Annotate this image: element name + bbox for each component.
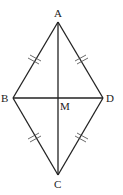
label-m: M <box>60 100 70 112</box>
label-b: B <box>1 92 8 104</box>
label-c: C <box>54 178 61 190</box>
edge-ab <box>13 22 58 98</box>
edge-ad <box>58 22 103 98</box>
label-d: D <box>106 92 114 104</box>
label-a: A <box>54 7 62 19</box>
rhombus-diagram: A B D C M <box>0 0 123 195</box>
edge-bc <box>13 98 58 175</box>
